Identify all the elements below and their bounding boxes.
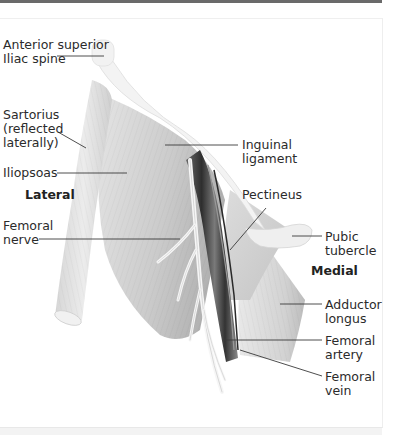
label-sartorius: Sartorius (reflected laterally) (3, 108, 63, 150)
orientation-lateral: Lateral (25, 188, 75, 202)
orientation-medial: Medial (311, 264, 358, 278)
label-femoral-nerve: Femoral nerve (3, 219, 53, 247)
label-femoral-vein: Femoral vein (325, 370, 375, 398)
label-iliopsoas: Iliopsoas (3, 166, 58, 180)
label-adductor-longus: Adductor longus (325, 298, 382, 326)
label-asis: Anterior superior Iliac spine (3, 38, 109, 66)
label-pectineus: Pectineus (242, 188, 302, 202)
label-inguinal-ligament: Inguinal ligament (242, 138, 297, 166)
label-femoral-artery: Femoral artery (325, 334, 375, 362)
label-pubic-tubercle: Pubic tubercle (325, 230, 376, 258)
